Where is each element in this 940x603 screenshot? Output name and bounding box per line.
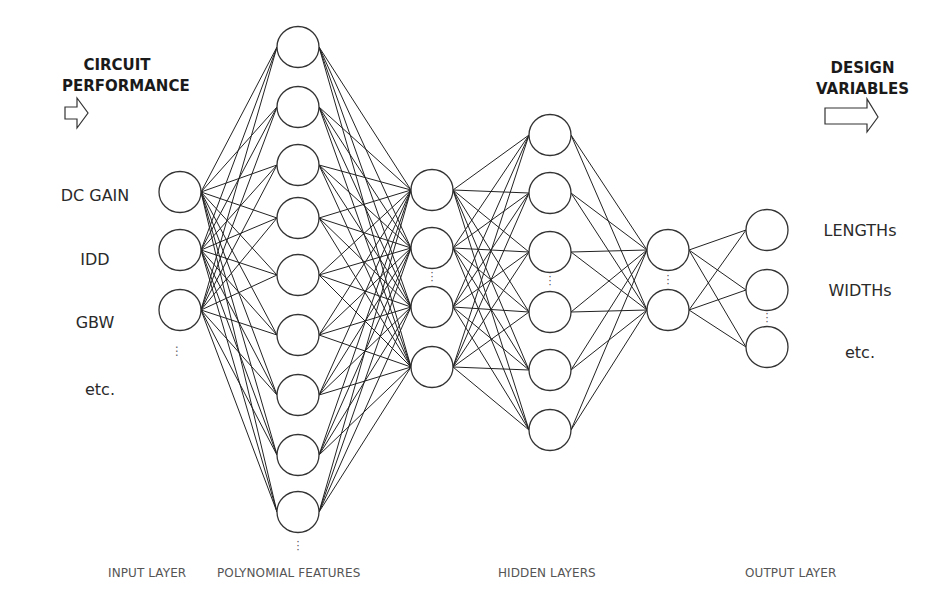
hidden2-node	[529, 410, 571, 451]
polynomial-node	[277, 492, 319, 533]
input-label-gbw: GBW	[50, 313, 140, 332]
polynomial-node	[277, 375, 319, 416]
connection-edge	[319, 307, 411, 512]
hidden1-node	[411, 170, 453, 211]
output-label-etc: etc.	[810, 343, 910, 362]
connection-edge	[571, 250, 647, 430]
output-ellipsis: ···	[765, 312, 769, 324]
input-ellipsis: ⋮	[170, 344, 184, 358]
connection-edge	[319, 367, 411, 512]
input-label-dc-gain: DC GAIN	[50, 186, 140, 205]
connection-edge	[453, 312, 529, 367]
hidden2-node	[529, 232, 571, 273]
hidden-layers-label: HIDDEN LAYERS	[498, 566, 596, 580]
output-node	[746, 210, 788, 251]
input-node	[159, 230, 201, 271]
design-variables-heading: DESIGN VARIABLES	[815, 58, 910, 100]
hidden2-node	[529, 292, 571, 333]
input-node	[159, 172, 201, 213]
connection-edge	[453, 135, 529, 248]
hidden1-ellipsis: ···	[430, 271, 434, 283]
input-arrow-icon	[65, 98, 88, 128]
polynomial-node	[277, 145, 319, 186]
heading-left-line2: PERFORMANCE	[62, 76, 172, 97]
hidden3-ellipsis: ···	[666, 274, 670, 286]
polynomial-node	[277, 255, 319, 296]
connection-edge	[201, 310, 277, 512]
connection-edge	[201, 47, 277, 250]
heading-right-line2: VARIABLES	[815, 79, 910, 100]
polynomial-ellipsis: ···	[296, 540, 300, 552]
input-label-etc: etc.	[55, 380, 145, 399]
hidden2-node	[529, 350, 571, 391]
connection-edge	[453, 135, 529, 190]
connection-edge	[571, 135, 647, 310]
input-label-idd: IDD	[50, 250, 140, 269]
heading-left-line1: CIRCUIT	[62, 55, 172, 76]
polynomial-node	[277, 315, 319, 356]
polynomial-node	[277, 198, 319, 239]
hidden2-node	[529, 173, 571, 214]
output-layer-label: OUTPUT LAYER	[745, 566, 836, 580]
connection-edge	[319, 47, 411, 248]
connection-edge	[319, 190, 411, 395]
connection-edge	[689, 310, 746, 347]
connection-edge	[453, 367, 529, 430]
output-arrow-icon	[825, 99, 878, 132]
hidden1-node	[411, 228, 453, 269]
connection-edge	[571, 135, 647, 250]
polynomial-node	[277, 27, 319, 68]
input-node	[159, 290, 201, 331]
hidden1-node	[411, 287, 453, 328]
connection-edge	[453, 307, 529, 370]
polynomial-node	[277, 435, 319, 476]
neuron-nodes	[159, 27, 788, 533]
hidden2-node	[529, 115, 571, 156]
connection-edge	[571, 310, 647, 430]
polynomial-features-label: POLYNOMIAL FEATURES	[217, 566, 360, 580]
output-node	[746, 327, 788, 368]
connection-edge	[689, 230, 746, 250]
circuit-performance-heading: CIRCUIT PERFORMANCE	[62, 55, 172, 97]
connection-edge	[453, 367, 529, 370]
input-layer-label: INPUT LAYER	[108, 566, 186, 580]
polynomial-node	[277, 87, 319, 128]
connection-edge	[571, 193, 647, 250]
hidden3-node	[647, 290, 689, 331]
hidden1-node	[411, 347, 453, 388]
hidden2-ellipsis: ···	[548, 275, 552, 287]
connection-edge	[453, 252, 529, 367]
output-node	[746, 270, 788, 311]
heading-right-line1: DESIGN	[815, 58, 910, 79]
connection-edge	[571, 250, 647, 312]
connection-edge	[689, 290, 746, 310]
hidden3-node	[647, 230, 689, 271]
output-label-lengths: LENGTHs	[810, 221, 910, 240]
output-label-widths: WIDTHs	[810, 281, 910, 300]
connection-edge	[201, 107, 277, 310]
